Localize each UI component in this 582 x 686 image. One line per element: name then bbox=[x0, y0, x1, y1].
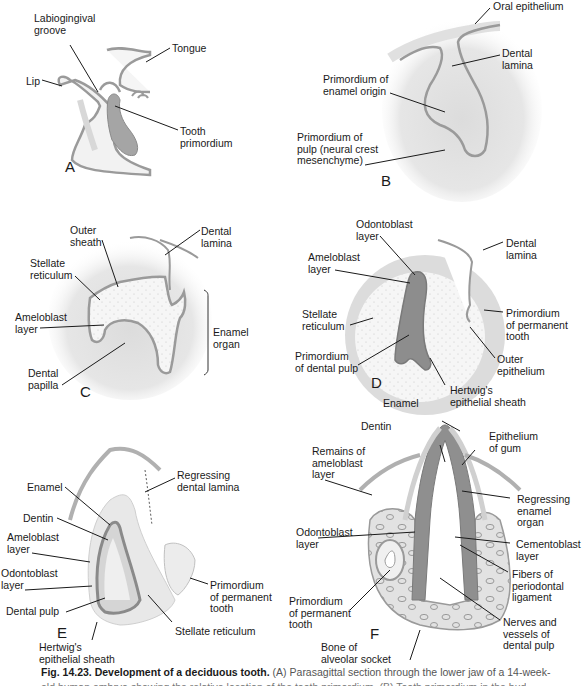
panel-letter-c: C bbox=[80, 383, 91, 400]
label-c-dental-lamina: Dental lamina bbox=[201, 226, 232, 249]
label-a-lip: Lip bbox=[26, 76, 40, 88]
label-d-ameloblast-layer: Ameloblast layer bbox=[308, 252, 360, 275]
label-e-dentin: Dentin bbox=[23, 513, 53, 525]
label-c-ameloblast-layer: Ameloblast layer bbox=[15, 312, 67, 335]
panel-a-drawing bbox=[59, 48, 150, 175]
label-d-dental-lamina: Dental lamina bbox=[506, 238, 537, 261]
label-f-cementoblast-layer: Cementoblast layer bbox=[516, 539, 581, 562]
panel-f-drawing bbox=[360, 425, 520, 630]
label-a-tooth-primordium: Tooth primordium bbox=[180, 126, 233, 149]
panel-letter-e: E bbox=[57, 624, 67, 641]
label-e-regressing-lamina: Regressing dental lamina bbox=[177, 470, 239, 493]
label-a-tongue: Tongue bbox=[172, 43, 206, 55]
label-e-ameloblast-layer: Ameloblast layer bbox=[7, 532, 59, 555]
figure-caption: Fig. 14.23. Development of a deciduous t… bbox=[41, 666, 550, 678]
label-c-stellate-reticulum: Stellate reticulum bbox=[30, 258, 73, 281]
label-f-remains-ameloblast: Remains of ameloblast layer bbox=[312, 446, 365, 481]
panel-b-drawing bbox=[382, 18, 542, 202]
label-f-regressing-enamel-organ: Regressing enamel organ bbox=[517, 494, 570, 529]
label-f-epithelium-gum: Epithelium of gum bbox=[489, 431, 538, 454]
caption-title: Fig. 14.23. Development of a deciduous t… bbox=[41, 666, 270, 678]
label-d-stellate-reticulum: Stellate reticulum bbox=[302, 309, 345, 332]
panel-letter-d: D bbox=[371, 374, 382, 391]
caption-text: (A) Parasagittal section through the low… bbox=[270, 666, 551, 678]
caption-line-2: old human embryo showing the relative lo… bbox=[41, 681, 526, 686]
label-d-odontoblast-layer: Odontoblast layer bbox=[356, 219, 413, 242]
label-f-dentin: Dentin bbox=[361, 421, 391, 433]
panel-letter-b: B bbox=[381, 172, 391, 189]
label-d-hertwig-sheath: Hertwig's epithelial sheath bbox=[450, 385, 526, 408]
label-f-odontoblast-layer: Odontoblast layer bbox=[296, 527, 353, 550]
label-e-hertwig-sheath: Hertwig's epithelial sheath bbox=[39, 642, 115, 665]
label-f-enamel: Enamel bbox=[383, 398, 419, 410]
label-b-primordium-enamel: Primordium of enamel origin bbox=[323, 74, 388, 97]
label-b-primordium-pulp: Primordium of pulp (neural crest mesench… bbox=[297, 132, 378, 167]
tooth-development-illustration bbox=[0, 0, 582, 686]
label-f-fibers-pdl: Fibers of periodontal ligament bbox=[512, 569, 564, 604]
label-f-primordium-permanent: Primordium of permanent tooth bbox=[289, 596, 351, 631]
label-e-enamel: Enamel bbox=[27, 482, 63, 494]
label-c-dental-papilla: Dental papilla bbox=[28, 368, 58, 391]
label-a-labiogingival-groove: Labiogingival groove bbox=[34, 13, 95, 36]
label-b-dental-lamina: Dental lamina bbox=[502, 48, 533, 71]
panel-letter-a: A bbox=[65, 158, 75, 175]
label-e-odontoblast-layer: Odontoblast layer bbox=[1, 568, 58, 591]
label-c-outer-sheath: Outer sheath bbox=[70, 225, 102, 248]
label-e-stellate-reticulum: Stellate reticulum bbox=[175, 626, 256, 638]
label-d-primordium-permanent: Primordium of permanent tooth bbox=[506, 308, 568, 343]
label-c-enamel-organ: Enamel organ bbox=[213, 327, 249, 350]
label-b-oral-epithelium: Oral epithelium bbox=[493, 1, 564, 13]
label-f-nerves-vessels: Nerves and vessels of dental pulp bbox=[503, 617, 557, 652]
label-e-primordium-permanent: Primordium of permanent tooth bbox=[210, 580, 272, 615]
label-d-outer-epithelium: Outer epithelium bbox=[497, 354, 545, 377]
panel-letter-f: F bbox=[370, 625, 379, 642]
label-f-bone-alveolar: Bone of alveolar socket bbox=[321, 642, 391, 665]
label-d-primordium-dental-pulp: Primordium of dental pulp bbox=[295, 351, 358, 374]
label-e-dental-pulp: Dental pulp bbox=[6, 606, 59, 618]
